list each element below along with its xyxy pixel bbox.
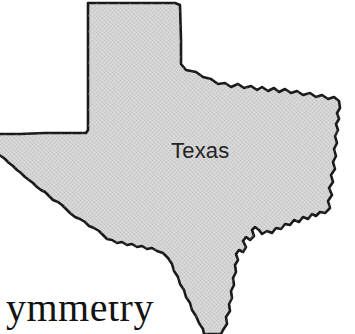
texas-map-svg — [0, 0, 355, 334]
map-figure: Texas ymmetry — [0, 0, 355, 334]
texas-hatch-overlay — [0, 3, 340, 334]
state-name-label: Texas — [171, 140, 229, 162]
